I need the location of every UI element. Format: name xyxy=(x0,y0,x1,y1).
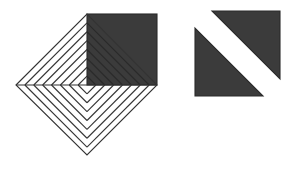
figure-canvas: Geometric shape comparison xyxy=(0,0,291,171)
